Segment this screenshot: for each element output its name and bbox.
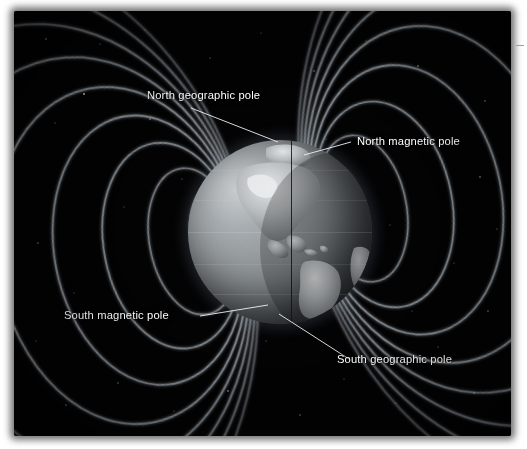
leader-north-magnetic	[304, 142, 351, 155]
registration-tick	[516, 45, 524, 46]
figure-root: North geographic pole North magnetic pol…	[0, 0, 527, 449]
label-north-magnetic-pole: North magnetic pole	[357, 135, 460, 147]
leader-south-magnetic	[200, 305, 268, 316]
leader-lines	[14, 11, 511, 436]
label-south-magnetic-pole: South magnetic pole	[64, 309, 169, 321]
label-north-geographic-pole: North geographic pole	[147, 89, 260, 101]
leader-north-geographic	[191, 108, 278, 142]
space-background-plate: North geographic pole North magnetic pol…	[14, 11, 511, 436]
label-south-geographic-pole: South geographic pole	[337, 353, 452, 365]
